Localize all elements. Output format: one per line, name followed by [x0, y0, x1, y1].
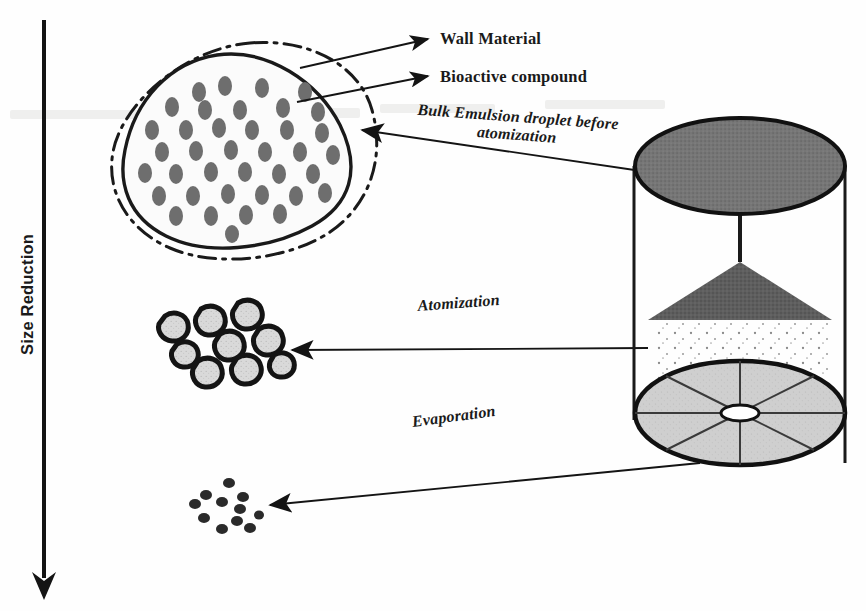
chamber-top-disc	[635, 118, 845, 214]
label-bioactive-compound: Bioactive compound	[440, 67, 587, 87]
arrow-evaporation	[270, 463, 700, 505]
spray-cone	[648, 262, 832, 320]
arrow-to-bioactive-compound	[297, 76, 428, 102]
label-wall-material: Wall Material	[440, 29, 541, 49]
dried-particles	[189, 478, 264, 534]
label-size-reduction: Size Reduction	[18, 234, 37, 355]
base-center-hole	[721, 405, 759, 421]
atomized-droplets	[159, 300, 295, 387]
spray-dryer-chamber	[634, 118, 845, 465]
spray-drying-diagram: Wall Material Bioactive compound Bulk Em…	[0, 0, 866, 611]
chamber-base-disc	[635, 361, 845, 465]
arrow-atomization	[292, 348, 648, 350]
